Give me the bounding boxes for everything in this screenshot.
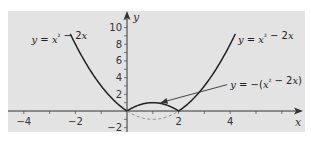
x-tick-label: −2 bbox=[68, 116, 83, 127]
annotation-part: − 2 bbox=[271, 75, 292, 86]
y-tick-label: 6 bbox=[116, 55, 122, 66]
y-tick-label: 10 bbox=[109, 22, 122, 33]
x-axis-label: x bbox=[295, 116, 302, 129]
annotation-part: = −( bbox=[236, 79, 263, 90]
annotation-part: x bbox=[288, 30, 294, 41]
y-axis-label: y bbox=[132, 11, 140, 24]
plot-background bbox=[8, 11, 305, 132]
y-tick-label: 2 bbox=[116, 89, 122, 100]
x-tick-label: 2 bbox=[175, 116, 181, 127]
annotation-part: ) bbox=[298, 75, 302, 86]
annotation-part: = bbox=[37, 34, 52, 45]
annotation-part: = bbox=[244, 34, 259, 45]
x-tick-label: −4 bbox=[16, 116, 31, 127]
x-tick-label: 4 bbox=[227, 116, 233, 127]
y-tick-label: −2 bbox=[107, 122, 122, 133]
chart: −4−224−2246810xyy = x² − 2xy = x² − 2xy … bbox=[0, 0, 311, 142]
y-tick-label: 4 bbox=[116, 72, 122, 83]
annotation-part: − 2 bbox=[267, 30, 288, 41]
annotation-part: x bbox=[82, 30, 88, 41]
y-tick-label: 8 bbox=[116, 39, 122, 50]
annotation-part: − 2 bbox=[60, 30, 81, 41]
